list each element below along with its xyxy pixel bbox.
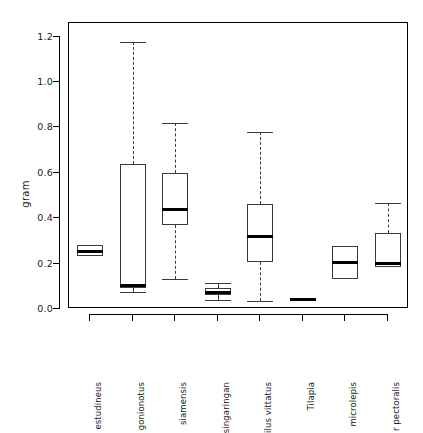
y-tick-label: 0.6 xyxy=(37,166,53,177)
x-axis: estudineusgonionotus siamensissingaring… xyxy=(68,308,408,388)
y-tick-mark xyxy=(53,81,60,82)
y-tick-mark xyxy=(53,172,60,173)
y-tick-label: 1.2 xyxy=(37,30,53,41)
x-tick-label: singaringan xyxy=(221,382,231,433)
x-tick-mark xyxy=(132,314,133,321)
y-tick-mark xyxy=(53,308,60,309)
y-tick-label: 0.4 xyxy=(37,212,53,223)
x-tick-mark xyxy=(217,314,218,321)
x-tick-label:  siamensis xyxy=(178,382,188,428)
x-tick-label: microlepis xyxy=(348,382,358,427)
plot-area xyxy=(69,23,407,307)
y-tick-label: 0.2 xyxy=(37,257,53,268)
whisker-cap-upper xyxy=(375,203,401,204)
y-tick-mark xyxy=(53,36,60,37)
whisker-upper xyxy=(388,203,389,232)
x-tick-label: Tilapia xyxy=(306,382,316,411)
median-line xyxy=(375,262,401,265)
x-tick-mark xyxy=(174,314,175,321)
x-tick-label: r pectoralis xyxy=(391,382,401,431)
y-tick-label: 0.0 xyxy=(37,303,53,314)
x-tick-mark xyxy=(344,314,345,321)
y-axis-title: gram xyxy=(20,180,31,208)
x-tick-mark xyxy=(259,314,260,321)
y-tick-mark xyxy=(53,126,60,127)
x-tick-mark xyxy=(302,314,303,321)
y-tick-label: 0.8 xyxy=(37,121,53,132)
x-tick-mark xyxy=(89,314,90,321)
y-tick-mark xyxy=(53,217,60,218)
x-tick-label: estudineus xyxy=(93,382,103,430)
plot-frame xyxy=(68,22,408,308)
y-axis: gram 0.00.20.40.60.81.01.2 xyxy=(0,0,68,388)
y-tick-mark xyxy=(53,263,60,264)
x-tick-mark xyxy=(387,314,388,321)
x-axis-line xyxy=(89,314,387,315)
y-tick-label: 1.0 xyxy=(37,76,53,87)
x-tick-label: ilus vittatus xyxy=(263,382,273,433)
x-tick-label: gonionotus xyxy=(136,382,146,430)
boxplot-box xyxy=(69,23,407,307)
